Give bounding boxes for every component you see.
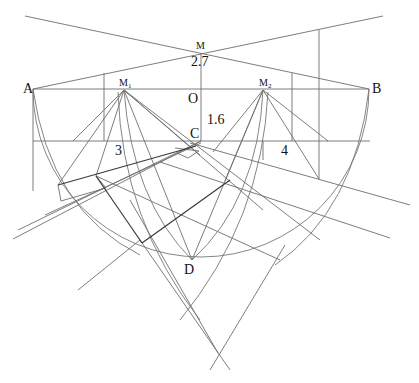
ray-M1-1 <box>58 90 124 185</box>
label-M2-sub: 2 <box>268 82 272 90</box>
perspective-diagram <box>0 0 419 383</box>
label-A: A <box>23 82 33 96</box>
ray-M1-2 <box>73 90 124 141</box>
label-dist-MO: 2.7 <box>191 55 209 69</box>
label-side-3: 3 <box>115 144 122 158</box>
long-line-2 <box>160 162 390 238</box>
converge-line-left <box>140 240 230 370</box>
label-M1-base: M <box>119 77 128 88</box>
ray-M1-3 <box>96 90 124 176</box>
arc-left-long <box>118 92 200 320</box>
long-line-left-3 <box>78 240 140 290</box>
label-O: O <box>188 92 198 106</box>
long-line-4 <box>130 200 218 353</box>
label-B: B <box>372 82 381 96</box>
label-M2: M2 <box>259 78 271 90</box>
ray-M2-3 <box>263 90 328 141</box>
line-M-left <box>25 16 369 89</box>
long-line-1 <box>190 143 410 205</box>
label-D: D <box>184 263 194 277</box>
label-M1-sub: 1 <box>128 82 132 90</box>
converge-line-right <box>210 245 285 370</box>
line-M-right <box>33 16 383 89</box>
arc-left-outer <box>33 89 140 255</box>
label-C: C <box>190 127 199 141</box>
label-M1: M1 <box>119 78 131 90</box>
label-M: M <box>196 41 205 51</box>
label-dist-OC: 1.6 <box>207 113 225 127</box>
long-line-left-4 <box>45 143 201 215</box>
label-side-4: 4 <box>281 144 288 158</box>
label-M2-base: M <box>259 77 268 88</box>
arc-right-outer <box>275 89 369 265</box>
